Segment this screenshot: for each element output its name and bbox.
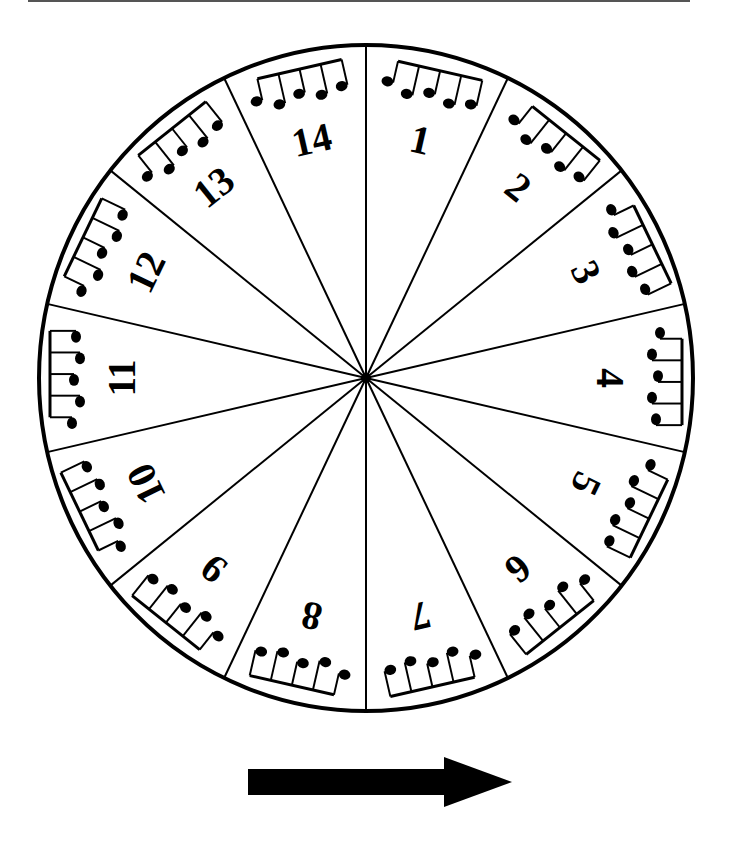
segment-14: 14 [246, 59, 363, 173]
segment-1: 1 [366, 59, 483, 173]
segment-number: 12 [118, 245, 175, 300]
segment-9: 9 [132, 522, 268, 657]
segment-number: 9 [192, 545, 235, 592]
spoke [366, 304, 685, 378]
segment-number: 7 [406, 592, 435, 640]
beamed-notes-icon [59, 198, 133, 302]
segment-number: 3 [562, 254, 611, 291]
direction-arrow-icon [248, 757, 513, 809]
segment-number: 1 [406, 116, 435, 164]
beamed-notes-icon [379, 59, 483, 115]
segment-number: 4 [588, 368, 632, 388]
segment-number: 11 [100, 359, 144, 396]
segment-number: 14 [288, 114, 336, 166]
spoke [366, 378, 508, 678]
beamed-notes-icon [597, 195, 671, 299]
beamed-notes-icon [599, 454, 673, 558]
wheel-hub [361, 373, 371, 383]
beamed-notes-icon [383, 641, 487, 697]
segment-number: 10 [118, 457, 175, 512]
spoke [366, 378, 685, 452]
segment-number: 5 [562, 465, 611, 502]
segment-2: 2 [464, 99, 600, 234]
spoke [47, 304, 366, 378]
segment-number: 13 [185, 158, 243, 217]
segment-11: 11 [50, 331, 144, 429]
segment-4: 4 [588, 327, 682, 425]
beamed-notes-icon [647, 327, 682, 425]
segment-8: 8 [250, 584, 367, 698]
rhythm-wheel: 1234567891011121314 [0, 0, 733, 848]
spoke [224, 378, 366, 678]
beamed-notes-icon [246, 59, 350, 115]
segment-number: 2 [497, 164, 540, 211]
spoke [47, 378, 366, 452]
segment-7: 7 [369, 583, 486, 697]
segment-number: 8 [297, 592, 326, 640]
segment-number: 6 [497, 545, 540, 592]
beamed-notes-icon [50, 331, 85, 429]
beamed-notes-icon [250, 641, 354, 697]
spoke [366, 78, 508, 378]
